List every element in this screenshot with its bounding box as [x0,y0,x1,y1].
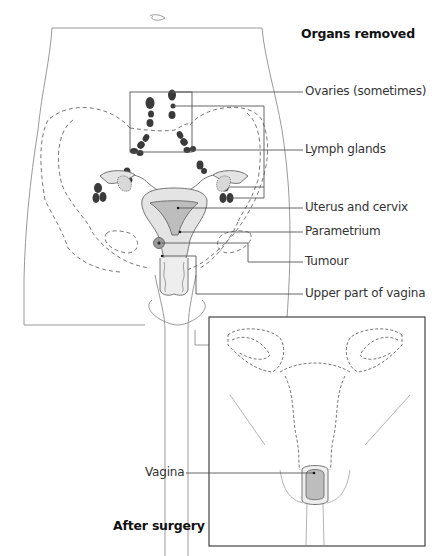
inset-panel [186,317,425,546]
label-tumour: Tumour [305,254,348,268]
label-vagina: Vagina [145,465,184,479]
label-ovaries: Ovaries (sometimes) [305,84,426,98]
pelvis-outline [41,107,268,272]
lymph-nodes [93,90,234,204]
label-lymph-glands: Lymph glands [305,142,386,156]
label-upper-vagina: Upper part of vagina [305,286,425,300]
diagram-title: Organs removed [301,26,415,41]
label-parametrium: Parametrium [305,224,380,238]
label-uterus-cervix: Uterus and cervix [305,200,408,214]
inset-title: After surgery [113,518,205,533]
